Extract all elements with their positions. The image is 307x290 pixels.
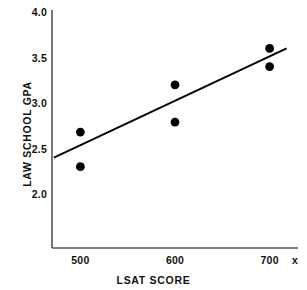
x-tick-label: 700 bbox=[261, 254, 279, 266]
trend-line bbox=[54, 48, 287, 157]
data-point bbox=[76, 162, 85, 171]
x-axis-title: LSAT SCORE bbox=[0, 274, 307, 286]
x-axis-end-label: x bbox=[292, 254, 298, 266]
y-tick-label: 2.5 bbox=[32, 143, 47, 155]
scatter-chart: 2.02.53.03.54.0 500600700 x LAW SCHOOL G… bbox=[0, 0, 307, 290]
y-tick-label: 3.5 bbox=[32, 52, 47, 64]
y-tick-label: 3.0 bbox=[32, 97, 47, 109]
x-tick-label: 500 bbox=[71, 254, 89, 266]
regression-line bbox=[54, 48, 287, 157]
data-point bbox=[171, 118, 180, 127]
data-point bbox=[265, 62, 274, 71]
x-tick-label: 600 bbox=[166, 254, 184, 266]
data-points bbox=[76, 44, 274, 171]
data-point bbox=[171, 80, 180, 89]
y-tick-label: 2.0 bbox=[32, 188, 47, 200]
data-point bbox=[76, 128, 85, 137]
data-point bbox=[265, 44, 274, 53]
y-tick-label: 4.0 bbox=[32, 6, 47, 18]
axes bbox=[52, 10, 298, 248]
y-axis-title: LAW SCHOOL GPA bbox=[21, 49, 33, 219]
